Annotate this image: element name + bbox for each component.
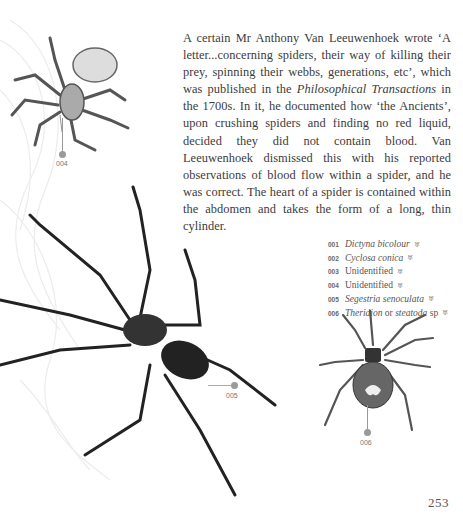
callout-005-line [208, 385, 233, 386]
legend-number: 003 [328, 266, 345, 279]
legend-number: 001 [328, 239, 345, 252]
spider-glyph-icon: ♅ [414, 239, 420, 252]
spider-glyph-icon: ♅ [397, 266, 403, 279]
legend-item-004: 004Unidentified♅ [328, 279, 448, 293]
legend-species-name: Unidentified [345, 280, 393, 290]
callout-005-dot [231, 382, 238, 389]
legend-species-or: or [382, 308, 395, 318]
legend-species-name: Cyclosa conica [345, 253, 403, 263]
legend-item-006: 006Theridion or steatoda sp♅ [328, 307, 448, 321]
callout-004-dot [59, 151, 66, 158]
page-number: 253 [428, 495, 449, 511]
spider-004-illustration [0, 20, 160, 160]
legend-species-name: Dictyna bicolour [345, 239, 410, 249]
spider-glyph-icon: ♅ [407, 252, 413, 265]
legend-species-name: Segestria senoculata [345, 294, 424, 304]
callout-006-line [367, 405, 368, 430]
species-legend: 001Dictyna bicolour♅ 002Cyclosa conica♅ … [328, 238, 448, 320]
callout-006-label: 006 [360, 439, 372, 446]
legend-species-suffix: sp [427, 308, 438, 318]
spider-glyph-icon: ♅ [442, 307, 448, 320]
legend-number: 005 [328, 294, 345, 307]
journal-title: Philosophical Transactions [297, 82, 436, 96]
legend-item-001: 001Dictyna bicolour♅ [328, 238, 448, 252]
spider-006-illustration [315, 310, 435, 450]
legend-species-genus-a: Theridion [345, 308, 382, 318]
spider-glyph-icon: ♅ [397, 280, 403, 293]
legend-item-005: 005Segestria senoculata♅ [328, 293, 448, 307]
callout-004-line [62, 118, 63, 152]
legend-item-002: 002Cyclosa conica♅ [328, 252, 448, 266]
callout-006-dot [364, 429, 371, 436]
legend-number: 002 [328, 253, 345, 266]
callout-005-label: 005 [226, 392, 238, 399]
legend-species-genus-b: steatoda [395, 308, 427, 318]
spider-glyph-icon: ♅ [428, 293, 434, 306]
legend-number: 004 [328, 280, 345, 293]
legend-item-003: 003Unidentified♅ [328, 265, 448, 279]
legend-number: 006 [328, 308, 345, 321]
callout-004-label: 004 [56, 160, 68, 167]
legend-species-name: Unidentified [345, 266, 393, 276]
spider-005-illustration [0, 170, 300, 500]
